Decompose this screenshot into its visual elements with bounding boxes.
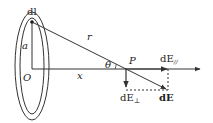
label-r: r — [87, 31, 93, 42]
r-line — [32, 22, 166, 89]
label-x: x — [77, 70, 83, 81]
label-dE-perp: dE⊥ — [120, 92, 140, 105]
label-theta: θ — [105, 59, 111, 70]
ring-field-diagram: dl a r O x θ P dE// dE⊥ dE — [0, 0, 213, 123]
label-dl: dl — [27, 6, 37, 17]
label-a: a — [22, 40, 28, 51]
theta-arc — [115, 65, 116, 70]
label-O: O — [23, 72, 31, 83]
label-dE-parallel: dE// — [160, 53, 179, 65]
label-P: P — [128, 55, 136, 66]
label-dE: dE — [159, 92, 174, 103]
